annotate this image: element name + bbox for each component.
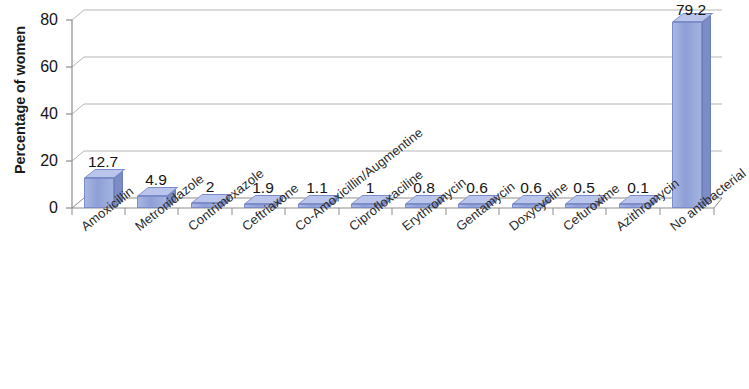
y-tick-label-80: 80: [18, 12, 58, 28]
value-label-11: 79.2: [656, 2, 726, 18]
value-label-0: 12.7: [68, 154, 138, 170]
y-tick-label-20: 20: [18, 153, 58, 169]
y-tick-label-40: 40: [18, 106, 58, 122]
y-tick-label-60: 60: [18, 59, 58, 75]
bar-side-face: [702, 15, 711, 208]
y-tick-label-0: 0: [18, 200, 58, 216]
